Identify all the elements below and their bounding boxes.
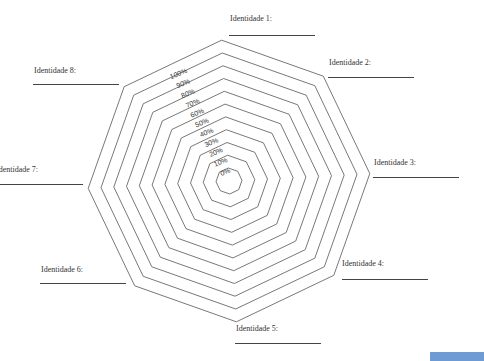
ring-label-70: 70% — [185, 97, 201, 109]
axis-3-answer-line[interactable] — [373, 177, 459, 178]
radar-ring-labels: 0%10%20%30%40%50%60%70%80%90%100% — [169, 67, 231, 177]
axis-6-answer-line[interactable] — [40, 283, 126, 284]
grid-ring-80 — [114, 66, 344, 296]
axis-label-4: Identidade 4: — [342, 259, 384, 268]
axis-label-7: Identidade 7: — [0, 165, 38, 174]
grid-ring-40 — [165, 117, 293, 245]
axis-label-2: Identidade 2: — [329, 58, 371, 67]
grid-ring-30 — [178, 130, 281, 233]
axis-label-5: Identidade 5: — [236, 324, 278, 333]
ring-label-20: 20% — [208, 146, 224, 158]
grid-ring-10 — [203, 155, 255, 207]
corner-blue-bar — [430, 352, 484, 361]
ring-label-10: 10% — [213, 156, 229, 168]
grid-ring-100 — [88, 40, 370, 322]
ring-label-80: 80% — [180, 87, 196, 99]
axis-2-answer-line[interactable] — [328, 77, 414, 78]
axis-8-answer-line[interactable] — [33, 84, 119, 85]
axis-5-answer-line[interactable] — [235, 343, 321, 344]
axis-label-1: Identidade 1: — [230, 14, 272, 23]
axis-4-answer-line[interactable] — [342, 279, 428, 280]
grid-ring-70 — [127, 79, 332, 284]
ring-label-60: 60% — [189, 107, 205, 119]
axis-label-3: Identidade 3: — [374, 158, 416, 167]
axis-label-8: Identidade 8: — [34, 66, 76, 75]
grid-ring-90 — [101, 53, 357, 309]
grid-ring-20 — [191, 143, 268, 220]
axis-1-answer-line[interactable] — [229, 35, 315, 36]
ring-label-90: 90% — [175, 77, 191, 89]
radar-grid-rings — [88, 40, 370, 322]
axis-7-answer-line[interactable] — [0, 184, 83, 185]
ring-label-50: 50% — [194, 117, 210, 129]
axis-label-6: Identidade 6: — [41, 265, 83, 274]
ring-label-30: 30% — [203, 136, 219, 148]
grid-ring-50 — [152, 104, 306, 258]
radar-chart: 0%10%20%30%40%50%60%70%80%90%100% — [0, 0, 484, 361]
